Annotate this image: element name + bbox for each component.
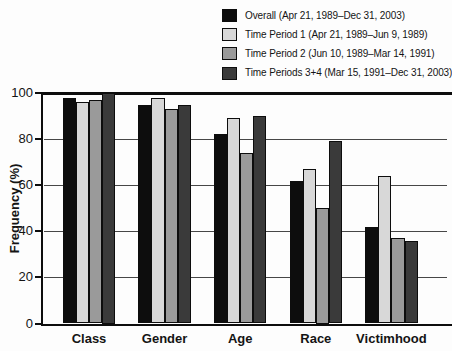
plot-area: Frequency (%) 020406080100ClassGenderAge… bbox=[0, 0, 452, 351]
x-axis-line bbox=[41, 324, 452, 326]
bar-gender-series4 bbox=[178, 105, 191, 324]
bar-class-series4 bbox=[102, 93, 115, 324]
bar-age-series1 bbox=[214, 134, 227, 323]
bar-race-series4 bbox=[329, 141, 342, 323]
bar-chart-figure: Overall (Apr 21, 1989–Dec 31, 2003)Time … bbox=[0, 0, 452, 351]
bar-class-series1 bbox=[63, 98, 76, 324]
bar-race-series3 bbox=[316, 208, 329, 323]
bar-class-series3 bbox=[89, 100, 102, 324]
bar-victimhood-series3 bbox=[391, 238, 404, 323]
bar-race-series2 bbox=[303, 169, 316, 323]
bar-class-series2 bbox=[76, 102, 89, 323]
bar-gender-series1 bbox=[138, 105, 151, 324]
bar-victimhood-series4 bbox=[405, 241, 418, 324]
x-category-label-class: Class bbox=[72, 331, 107, 346]
x-category-label-gender: Gender bbox=[142, 331, 188, 346]
bar-victimhood-series2 bbox=[378, 176, 391, 324]
bar-age-series3 bbox=[240, 153, 253, 324]
y-axis-line bbox=[41, 92, 43, 327]
y-axis-tick-label-40: 40 bbox=[3, 224, 33, 238]
bar-age-series4 bbox=[253, 116, 266, 323]
y-axis-tick-label-20: 20 bbox=[3, 270, 33, 284]
y-axis-tick-label-0: 0 bbox=[3, 317, 33, 331]
x-category-label-race: Race bbox=[300, 331, 331, 346]
bar-victimhood-series1 bbox=[365, 227, 378, 324]
bar-gender-series3 bbox=[165, 109, 178, 323]
bar-race-series1 bbox=[290, 181, 303, 324]
y-axis-tick-label-100: 100 bbox=[3, 86, 33, 100]
bar-age-series2 bbox=[227, 118, 240, 323]
y-axis-tick-label-80: 80 bbox=[3, 132, 33, 146]
y-axis-title: Frequency (%) bbox=[7, 148, 22, 270]
x-category-label-victimhood: Victimhood bbox=[356, 331, 427, 346]
x-category-label-age: Age bbox=[228, 331, 253, 346]
y-axis-tick-label-60: 60 bbox=[3, 178, 33, 192]
bar-gender-series2 bbox=[151, 98, 164, 324]
